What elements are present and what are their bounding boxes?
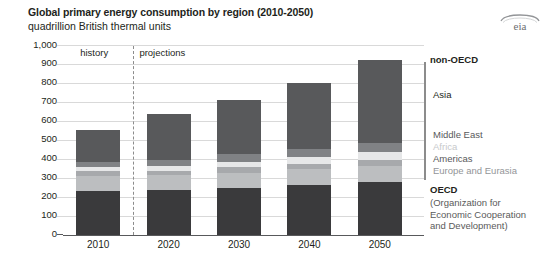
legend-gridline-stub-800 <box>415 83 424 84</box>
bar-segment-2050-oecd <box>358 182 402 235</box>
legend-oecd-expansion-line-3: and Development) <box>430 220 526 232</box>
svg-text:eia: eia <box>514 20 527 32</box>
bar-segment-2050-middle-east <box>358 143 402 153</box>
bar-segment-2050-asia <box>358 60 402 142</box>
bar-segment-2040-americas <box>287 164 331 170</box>
bar-segment-2020-asia <box>147 114 191 159</box>
bar-segment-2010-oecd <box>76 191 120 235</box>
bar-segment-2040-europe-and-eurasia <box>287 169 331 185</box>
bar-2030 <box>217 100 261 235</box>
legend-gridline-stub-600 <box>415 121 424 122</box>
gridline-1000 <box>63 45 415 46</box>
history-projection-divider <box>133 46 134 235</box>
bar-2020 <box>147 114 191 235</box>
bar-segment-2010-americas <box>76 171 120 175</box>
legend-oecd-expansion: (Organization for Economic Cooperation a… <box>430 197 526 232</box>
bar-segment-2020-middle-east <box>147 160 191 166</box>
bar-segment-2020-americas <box>147 171 191 176</box>
legend-oecd-expansion-line-2: Economic Cooperation <box>430 209 526 221</box>
chart-subtitle: quadrillion British thermal units <box>28 20 313 32</box>
bar-segment-2030-middle-east <box>217 154 261 161</box>
x-tick-2030: 2030 <box>217 239 261 250</box>
bar-segment-2030-asia <box>217 100 261 154</box>
bar-2010 <box>76 130 120 235</box>
legend-gridline-stub-500 <box>415 140 424 141</box>
legend-item-europe-and-eurasia: Europe and Eurasia <box>433 165 517 176</box>
x-tick-2010: 2010 <box>76 239 120 250</box>
bar-2040 <box>287 83 331 235</box>
bar-segment-2050-europe-and-eurasia <box>358 166 402 182</box>
x-tick-2040: 2040 <box>287 239 331 250</box>
bar-segment-2010-europe-and-eurasia <box>76 176 120 191</box>
x-tick-2020: 2020 <box>147 239 191 250</box>
bar-segment-2030-americas <box>217 167 261 172</box>
bar-segment-2020-oecd <box>147 190 191 235</box>
legend-item-asia: Asia <box>433 89 451 100</box>
legend-gridline-stub-0 <box>415 235 424 236</box>
legend-bracket <box>424 62 426 180</box>
bar-segment-2020-africa <box>147 166 191 171</box>
legend-gridline-stub-100 <box>415 216 424 217</box>
bar-segment-2040-middle-east <box>287 149 331 157</box>
bar-segment-2040-oecd <box>287 185 331 235</box>
page-title: Global primary energy consumption by reg… <box>28 6 313 18</box>
legend-item-middle-east: Middle East <box>433 129 483 140</box>
legend-gridline-stub-400 <box>415 159 424 160</box>
y-axis-tickmarks <box>0 45 63 235</box>
plot-area <box>63 45 415 235</box>
bar-segment-2040-asia <box>287 83 331 149</box>
x-tick-2050: 2050 <box>358 239 402 250</box>
legend: non-OECD Asia Middle East Africa America… <box>424 50 556 250</box>
legend-gridline-stub-300 <box>415 178 424 179</box>
bar-segment-2010-middle-east <box>76 162 120 167</box>
bar-segment-2050-americas <box>358 160 402 166</box>
chart-header: Global primary energy consumption by reg… <box>28 6 313 32</box>
bar-segment-2010-africa <box>76 167 120 171</box>
label-projections: projections <box>139 47 185 58</box>
bar-segment-2030-europe-and-eurasia <box>217 173 261 188</box>
legend-item-africa: Africa <box>433 141 457 152</box>
bar-segment-2020-europe-and-eurasia <box>147 175 191 190</box>
bar-segment-2030-oecd <box>217 188 261 235</box>
legend-gridline-stub-200 <box>415 197 424 198</box>
bar-2050 <box>358 60 402 235</box>
bar-segment-2030-africa <box>217 162 261 168</box>
legend-gridline-stub-900 <box>415 64 424 65</box>
bar-segment-2050-africa <box>358 152 402 160</box>
label-history: history <box>80 47 108 58</box>
eia-logo-icon: eia <box>498 10 542 32</box>
legend-gridline-stub-700 <box>415 102 424 103</box>
x-axis-labels: 20102020203020402050 <box>63 239 415 259</box>
bar-segment-2040-africa <box>287 157 331 164</box>
legend-oecd-expansion-line-1: (Organization for <box>430 197 526 209</box>
legend-group-oecd: OECD <box>430 184 457 195</box>
period-annotations: history projections <box>63 47 415 65</box>
legend-gridline-stubs <box>415 45 424 235</box>
legend-gridline-stub-1000 <box>415 45 424 46</box>
legend-item-americas: Americas <box>433 153 473 164</box>
gridline-0 <box>63 235 415 236</box>
bar-segment-2010-asia <box>76 130 120 163</box>
legend-group-non-oecd: non-OECD <box>430 54 478 65</box>
